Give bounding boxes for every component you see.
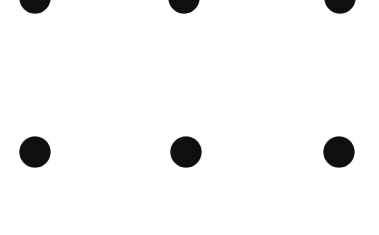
dot-3 [325,0,356,14]
dot-1 [20,0,51,14]
dot-4 [20,137,51,168]
dot-5 [171,137,202,168]
dot-pattern-canvas [0,0,379,235]
dot-6 [324,137,355,168]
dot-2 [169,0,200,14]
